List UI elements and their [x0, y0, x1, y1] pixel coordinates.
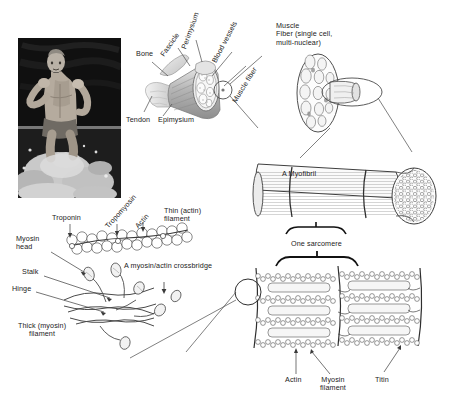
label-epimysium: Epimysium — [158, 116, 194, 124]
sarcomere-brace-lower — [276, 251, 358, 266]
label-actin-sarcomere: Actin — [285, 376, 301, 384]
myofibril-drawing — [253, 164, 436, 224]
label-thick-myosin-filament: Thick (myosin) filament — [18, 322, 66, 339]
label-a-myofibril: A Myofibril — [282, 170, 316, 178]
label-one-sarcomere: One sarcomere — [291, 240, 342, 248]
label-troponin: Troponin — [52, 214, 81, 222]
muscle-fiber-drawing — [297, 54, 412, 158]
label-hinge: Hinge — [12, 285, 31, 293]
thin-actin-filament — [67, 223, 192, 254]
label-myosin-head: Myosin head — [16, 235, 39, 252]
label-muscle-fiber-cell: Muscle Fiber (single cell, multi-nuclear… — [276, 22, 332, 47]
label-tendon: Tendon — [126, 116, 150, 124]
label-crossbridge: A myosin/actin crossbridge — [124, 262, 212, 270]
label-titin: Titin — [375, 376, 389, 384]
thick-myosin-filament — [64, 288, 156, 326]
label-myosin-filament: Myosin filament — [320, 376, 346, 393]
label-stalk: Stalk — [22, 268, 38, 276]
protruding-myofibril — [330, 81, 360, 103]
runner-photograph — [14, 38, 121, 203]
actin-chain — [256, 274, 336, 282]
sarcomere-detail-drawing — [130, 266, 422, 374]
label-bone: Bone — [136, 50, 153, 58]
sarcomere-brace-upper — [286, 222, 346, 234]
label-thin-actin-filament: Thin (actin) filament — [164, 207, 201, 224]
muscle-anatomy-figure — [0, 0, 460, 403]
